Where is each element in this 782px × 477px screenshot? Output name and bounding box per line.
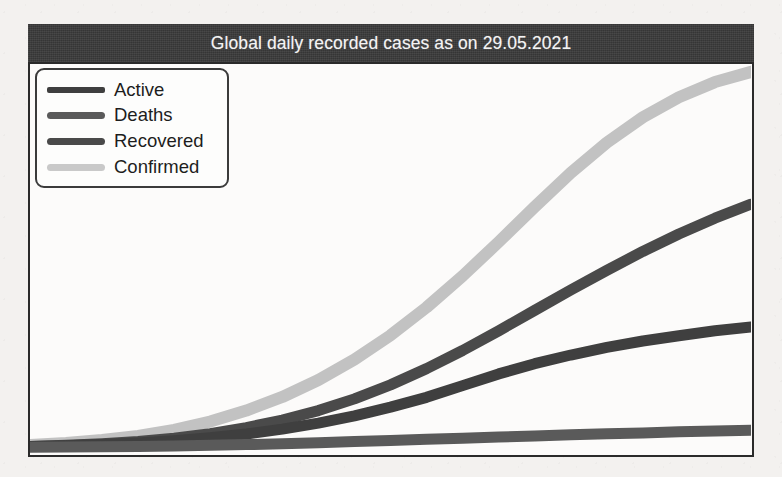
legend-swatch-deaths	[47, 112, 105, 119]
legend-item-deaths[interactable]: Deaths	[47, 103, 219, 129]
legend-item-confirmed[interactable]: Confirmed	[47, 154, 219, 180]
legend-label-confirmed: Confirmed	[114, 158, 199, 177]
legend-item-recovered[interactable]: Recovered	[47, 129, 219, 155]
plot-area: Active Deaths Recovered Confirmed	[28, 62, 754, 457]
chart-legend: Active Deaths Recovered Confirmed	[35, 68, 229, 188]
legend-label-deaths: Deaths	[114, 106, 173, 125]
chart-figure: Global daily recorded cases as on 29.05.…	[28, 24, 754, 457]
legend-swatch-confirmed	[47, 164, 105, 171]
page-title: Global daily recorded cases as on 29.05.…	[211, 33, 571, 54]
legend-item-active[interactable]: Active	[47, 77, 219, 103]
chart-title-bar: Global daily recorded cases as on 29.05.…	[28, 24, 754, 62]
legend-label-active: Active	[114, 81, 164, 100]
legend-label-recovered: Recovered	[114, 132, 203, 151]
legend-swatch-active	[47, 87, 105, 93]
legend-swatch-recovered	[47, 138, 105, 145]
